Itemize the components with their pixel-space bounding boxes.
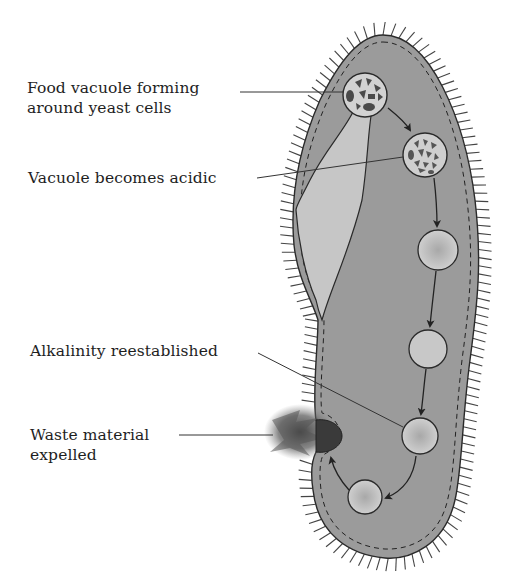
vacuole-stage-3 <box>418 230 458 270</box>
vacuole-stage-6 <box>348 480 382 514</box>
label-waste-expelled: Waste material expelled <box>30 425 149 465</box>
label-vacuole-acidic: Vacuole becomes acidic <box>28 168 217 188</box>
vacuole-alkaline <box>402 418 438 454</box>
food-vacuole-forming <box>343 73 387 117</box>
label-food-vacuole-forming: Food vacuole forming around yeast cells <box>27 78 200 118</box>
label-alkalinity-reestablished: Alkalinity reestablished <box>30 341 218 361</box>
acidic-vacuole <box>403 133 447 177</box>
vacuole-stage-4 <box>409 330 447 368</box>
